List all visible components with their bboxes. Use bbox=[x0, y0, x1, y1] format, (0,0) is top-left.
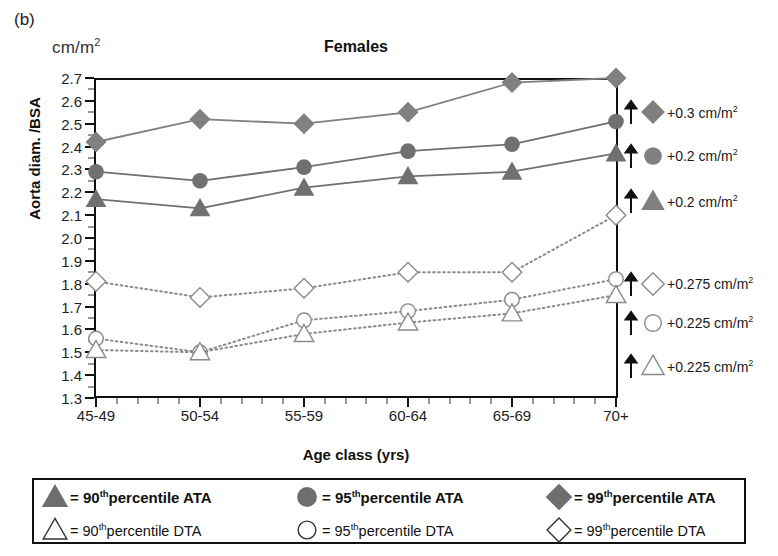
data-series bbox=[86, 68, 627, 153]
y-tick-label: 1.6 bbox=[61, 321, 82, 338]
data-series bbox=[89, 272, 624, 360]
annotation-label: +0.3 cm/m2 bbox=[667, 104, 738, 121]
x-tick-minor bbox=[179, 398, 180, 404]
up-arrow-icon bbox=[622, 188, 640, 214]
legend-label: = 90thpercentile ATA bbox=[70, 488, 212, 506]
legend-label: = 90thpercentile DTA bbox=[70, 521, 201, 539]
panel-letter: (b) bbox=[14, 10, 35, 30]
annotation-label: +0.2 cm/m2 bbox=[667, 147, 738, 164]
data-series-layer bbox=[94, 78, 618, 398]
data-point-marker bbox=[398, 102, 419, 123]
y-tick-major bbox=[85, 306, 94, 308]
data-point-marker bbox=[294, 278, 314, 298]
legend-label-sup: th bbox=[604, 488, 613, 499]
data-point-marker bbox=[398, 262, 418, 282]
y-tick-major bbox=[85, 214, 94, 216]
y-tick-label: 2.3 bbox=[61, 161, 82, 178]
data-point-marker bbox=[400, 143, 416, 159]
legend-marker-icon bbox=[544, 484, 574, 510]
y-tick-label: 1.7 bbox=[61, 298, 82, 315]
x-tick-label: 65-69 bbox=[493, 407, 531, 424]
series-line bbox=[96, 215, 616, 297]
y-tick-label: 2.7 bbox=[61, 70, 82, 87]
x-tick-label: 50-54 bbox=[181, 407, 219, 424]
x-tick-minor bbox=[324, 398, 325, 404]
x-tick-label: 60-64 bbox=[389, 407, 427, 424]
annotation-label: +0.225 cm/m2 bbox=[667, 314, 753, 331]
series-line bbox=[96, 295, 616, 352]
x-tick-minor bbox=[428, 398, 429, 404]
annotation-item: +0.275 cm/m2 bbox=[622, 271, 753, 297]
x-tick-minor bbox=[449, 398, 450, 404]
annotation-label-sup: 2 bbox=[748, 358, 753, 368]
annotation-label-sup: 2 bbox=[733, 147, 738, 157]
y-tick-label: 2.0 bbox=[61, 230, 82, 247]
annotation-label-sup: 2 bbox=[748, 314, 753, 324]
x-tick-major bbox=[615, 398, 617, 407]
x-tick-minor bbox=[283, 398, 284, 404]
legend-item: = 90thpercentile DTA bbox=[40, 517, 292, 543]
y-tick-major bbox=[85, 237, 94, 239]
x-tick-label: 70+ bbox=[603, 407, 628, 424]
right-annotations: +0.3 cm/m2+0.2 cm/m2+0.2 cm/m2+0.275 cm/… bbox=[622, 78, 778, 398]
x-tick-major bbox=[95, 398, 97, 407]
x-tick-minor bbox=[116, 398, 117, 404]
legend-label: = 99thpercentile ATA bbox=[574, 488, 716, 506]
annotation-item: +0.3 cm/m2 bbox=[622, 99, 738, 125]
annotation-label: +0.2 cm/m2 bbox=[667, 193, 738, 210]
legend-item: = 95thpercentile ATA bbox=[292, 484, 544, 510]
x-tick-minor bbox=[262, 398, 263, 404]
data-point-marker bbox=[502, 72, 523, 93]
y-tick-label: 2.6 bbox=[61, 92, 82, 109]
x-tick-minor bbox=[553, 398, 554, 404]
chart-title: Females bbox=[94, 38, 618, 56]
y-tick-major bbox=[85, 397, 94, 399]
y-tick-label: 1.4 bbox=[61, 367, 82, 384]
x-tick-minor bbox=[387, 398, 388, 404]
legend-row-dta: = 90thpercentile DTA= 95thpercentile DTA… bbox=[34, 513, 744, 546]
legend-item: = 90thpercentile ATA bbox=[40, 484, 292, 510]
up-arrow-icon bbox=[622, 99, 640, 125]
x-tick-minor bbox=[345, 398, 346, 404]
x-tick-minor bbox=[220, 398, 221, 404]
y-tick-label: 2.2 bbox=[61, 184, 82, 201]
annotation-marker-icon bbox=[640, 188, 666, 214]
annotation-item: +0.2 cm/m2 bbox=[622, 143, 738, 169]
annotation-label: +0.225 cm/m2 bbox=[667, 358, 753, 375]
annotation-item: +0.225 cm/m2 bbox=[622, 353, 753, 379]
legend-label: = 95thpercentile ATA bbox=[322, 488, 464, 506]
series-line bbox=[96, 153, 616, 208]
x-tick-minor bbox=[137, 398, 138, 404]
y-tick-label: 1.5 bbox=[61, 344, 82, 361]
legend-item: = 95thpercentile DTA bbox=[292, 517, 544, 543]
y-tick-label: 1.9 bbox=[61, 252, 82, 269]
data-point-marker bbox=[192, 173, 208, 189]
x-tick-major bbox=[407, 398, 409, 407]
legend-label-sup: th bbox=[351, 521, 359, 532]
y-tick-label: 2.1 bbox=[61, 207, 82, 224]
data-point-marker bbox=[190, 288, 210, 308]
data-point-marker bbox=[294, 113, 315, 134]
data-series bbox=[86, 205, 626, 307]
y-axis-title: Aorta diam. /BSA bbox=[26, 49, 43, 269]
legend-box: = 90thpercentile ATA= 95thpercentile ATA… bbox=[32, 478, 746, 544]
x-tick-minor bbox=[366, 398, 367, 404]
x-tick-minor bbox=[158, 398, 159, 404]
legend-marker-icon bbox=[544, 517, 574, 543]
legend-marker-icon bbox=[292, 484, 322, 510]
y-tick-label: 2.5 bbox=[61, 115, 82, 132]
x-tick-major bbox=[199, 398, 201, 407]
x-tick-minor bbox=[574, 398, 575, 404]
x-tick-minor bbox=[532, 398, 533, 404]
legend-marker-icon bbox=[292, 517, 322, 543]
y-tick-major bbox=[85, 328, 94, 330]
annotation-marker-icon bbox=[640, 271, 666, 297]
x-tick-major bbox=[511, 398, 513, 407]
up-arrow-icon bbox=[622, 353, 640, 379]
y-tick-major bbox=[85, 123, 94, 125]
x-tick-label: 55-59 bbox=[285, 407, 323, 424]
series-line bbox=[96, 279, 616, 352]
x-tick-minor bbox=[595, 398, 596, 404]
legend-marker-icon bbox=[40, 517, 70, 543]
legend-item: = 99thpercentile DTA bbox=[544, 517, 744, 543]
